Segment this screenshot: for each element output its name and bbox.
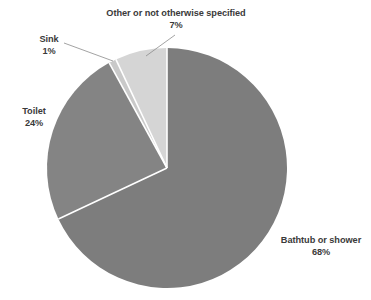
pie-label-toilet-name: Toilet — [22, 106, 46, 116]
pie-label-bathtub: Bathtub or shower 68% — [273, 234, 369, 258]
pie-label-sink-pct: 1% — [18, 45, 80, 57]
pie-label-other-pct: 7% — [86, 19, 266, 31]
pie-label-sink: Sink 1% — [18, 33, 80, 57]
pie-label-bathtub-name: Bathtub or shower — [281, 235, 361, 245]
pie-chart: Other or not otherwise specified 7% Sink… — [0, 0, 371, 300]
pie-label-bathtub-pct: 68% — [273, 246, 369, 258]
pie-label-other: Other or not otherwise specified 7% — [86, 7, 266, 31]
pie-label-other-name: Other or not otherwise specified — [106, 8, 245, 18]
pie-label-toilet-pct: 24% — [6, 117, 62, 129]
pie-label-sink-name: Sink — [39, 34, 58, 44]
pie-label-toilet: Toilet 24% — [6, 105, 62, 129]
